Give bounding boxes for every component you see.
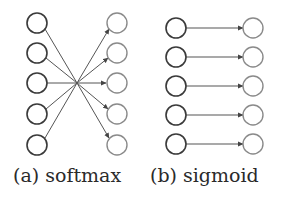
sigmoid-panel [166, 18, 263, 154]
input-node [166, 134, 186, 154]
output-node [107, 104, 127, 124]
input-node [166, 76, 186, 96]
input-node [27, 104, 47, 124]
sigmoid-caption: (b) sigmoid [150, 164, 259, 186]
output-node [243, 76, 263, 96]
input-node [27, 73, 47, 93]
softmax-panel [27, 13, 127, 155]
output-node [243, 47, 263, 67]
output-node [107, 13, 127, 33]
output-node [243, 18, 263, 38]
output-node [107, 73, 127, 93]
input-node [166, 47, 186, 67]
softmax-input-nodes [27, 13, 47, 155]
input-node [27, 135, 47, 155]
sigmoid-input-nodes [166, 18, 186, 154]
output-node [107, 43, 127, 63]
sigmoid-edges [186, 28, 243, 144]
output-node [243, 134, 263, 154]
sigmoid-output-nodes [243, 18, 263, 154]
softmax-caption: (a) softmax [13, 164, 121, 186]
output-node [107, 135, 127, 155]
softmax-output-nodes [107, 13, 127, 155]
output-node [243, 105, 263, 125]
input-node [27, 13, 47, 33]
input-node [166, 18, 186, 38]
input-node [166, 105, 186, 125]
softmax-edges [45, 29, 109, 138]
input-node [27, 43, 47, 63]
